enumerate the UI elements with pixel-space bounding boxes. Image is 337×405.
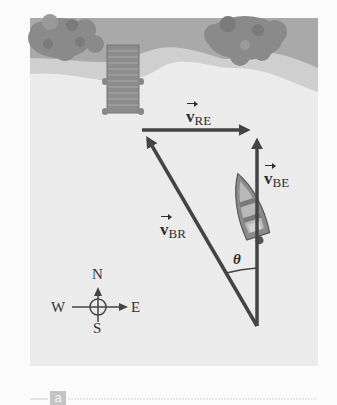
vector-subscript: RE [195,113,212,128]
vector-subscript: BR [169,226,186,241]
angle-theta-label: θ [233,251,241,268]
panel-label: a [50,391,66,405]
compass-north-label: N [92,266,103,283]
dock-icon [102,45,144,115]
compass-east-label: E [131,299,140,316]
label-v-br: vBR [160,221,186,240]
diagram-canvas [0,0,337,405]
river-crossing-figure: vRE vBE vBR θ N S W E a [0,0,337,405]
vector-symbol: v [160,221,169,238]
label-v-be: vBE [264,170,289,189]
label-v-re: vRE [186,108,211,127]
vector-symbol: v [186,108,195,125]
compass-west-label: W [51,299,65,316]
compass-south-label: S [93,320,101,337]
vector-subscript: BE [273,175,290,190]
vector-symbol: v [264,170,273,187]
